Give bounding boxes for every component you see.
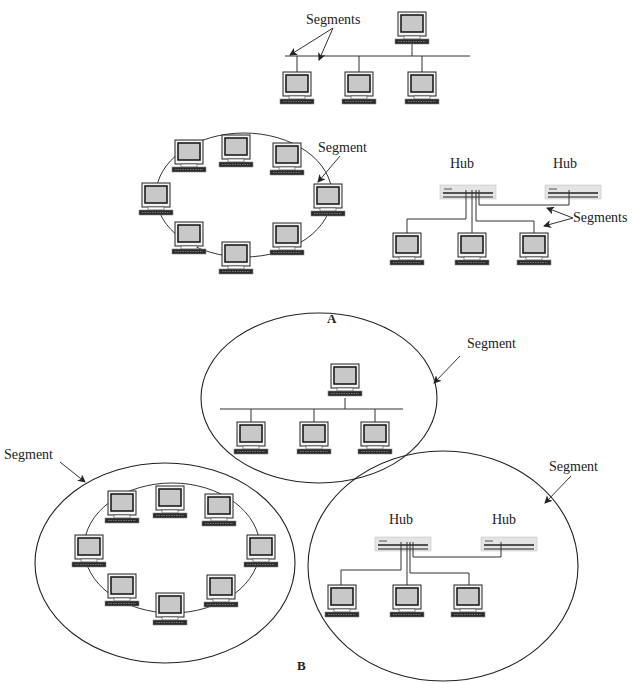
- network-segments-diagram: Segments Segment Hub Hub Segments A: [0, 0, 634, 684]
- computer-icon: [219, 242, 253, 274]
- computer-icon: [342, 72, 376, 104]
- computer-icon: [153, 593, 187, 625]
- star-topology-a: Hub Hub Segments: [390, 156, 627, 265]
- computer-icon: [325, 585, 359, 617]
- hub-label: Hub: [389, 512, 413, 527]
- segment-boundary: [308, 451, 578, 681]
- segment-label: Segment: [318, 140, 367, 155]
- computer-icon: [390, 233, 424, 265]
- ring-topology-a: Segment: [139, 133, 367, 274]
- computer-icon: [405, 72, 439, 104]
- computer-icon: [105, 574, 139, 606]
- bus-topology-a: Segments: [280, 12, 470, 104]
- computer-icon: [390, 585, 424, 617]
- computer-icon: [139, 183, 173, 215]
- computer-icon: [451, 585, 485, 617]
- segments-label: Segments: [573, 210, 627, 225]
- computer-icon: [358, 422, 392, 454]
- computer-icon: [153, 486, 187, 518]
- computer-icon: [172, 222, 206, 254]
- hub-icon: [545, 185, 601, 199]
- star-segment-b: Hub Hub Segment: [308, 451, 598, 681]
- computer-icon: [328, 364, 362, 396]
- segments-label: Segments: [306, 12, 360, 27]
- computer-icon: [172, 140, 206, 172]
- segment-label: Segment: [549, 459, 598, 474]
- computer-icon: [517, 233, 551, 265]
- computer-icon: [202, 494, 236, 526]
- panel-b-label: B: [297, 658, 306, 673]
- computer-icon: [219, 135, 253, 167]
- hub-label: Hub: [553, 156, 577, 171]
- computer-icon: [72, 535, 106, 567]
- computer-icon: [204, 575, 238, 607]
- bus-segment-b: Segment: [201, 313, 516, 483]
- computer-icon: [455, 233, 489, 265]
- computer-icon: [234, 422, 268, 454]
- hub-icon: [481, 537, 537, 551]
- computer-icon: [105, 491, 139, 523]
- segment-boundary: [201, 313, 437, 483]
- computer-icon: [244, 535, 278, 567]
- hub-label: Hub: [450, 156, 474, 171]
- computer-icon: [395, 12, 429, 44]
- computer-icon: [270, 143, 304, 175]
- hub-label: Hub: [492, 512, 516, 527]
- computer-icon: [270, 223, 304, 255]
- hub-icon: [440, 185, 496, 199]
- segment-label: Segment: [467, 336, 516, 351]
- ring-segment-b: Segment: [4, 447, 295, 663]
- hub-icon: [375, 537, 431, 551]
- computer-icon: [280, 72, 314, 104]
- computer-icon: [297, 422, 331, 454]
- segment-label: Segment: [4, 447, 53, 462]
- computer-icon: [311, 184, 345, 216]
